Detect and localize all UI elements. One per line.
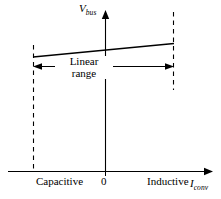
inductive-region-label: Inductive <box>147 176 189 188</box>
linear-range-label-line1: Linear <box>56 56 112 68</box>
figure-canvas <box>0 0 221 199</box>
linear-range-label-line2: range <box>56 68 112 80</box>
capacitive-region-label: Capacitive <box>36 176 83 188</box>
y-axis <box>102 10 109 172</box>
y-axis-label: Vbus <box>79 3 96 17</box>
y-axis-label-main: V <box>79 2 86 14</box>
x-axis-arrowhead-icon <box>204 168 213 175</box>
linear-range-arrowhead-right-icon <box>165 63 174 70</box>
y-axis-label-subscript: bus <box>86 8 97 17</box>
droop-characteristic-line <box>33 44 174 58</box>
x-axis-label-subscript: conv <box>194 183 209 192</box>
linear-range-arrowhead-left-icon <box>33 63 42 70</box>
x-axis-label: Iconv <box>190 178 208 192</box>
linear-range-label: Linear range <box>55 56 113 79</box>
y-axis-arrowhead-icon <box>102 10 109 19</box>
origin-label: 0 <box>101 176 107 188</box>
droop-characteristic-figure: Vbus Iconv Capacitive 0 Inductive Linear… <box>0 0 221 199</box>
